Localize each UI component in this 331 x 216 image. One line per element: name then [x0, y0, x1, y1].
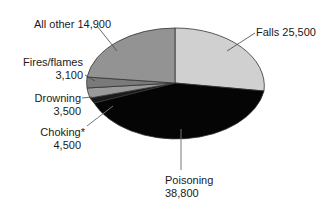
label-all-other: All other 14,900	[34, 18, 111, 31]
label-fires-name: Fires/flames	[22, 56, 83, 69]
label-choking-value: 4,500	[20, 139, 81, 152]
label-poisoning-name: Poisoning	[165, 174, 213, 187]
label-poisoning-value: 38,800	[165, 187, 199, 200]
slice-all-other	[87, 28, 175, 83]
label-drowning-value: 3,500	[20, 105, 81, 118]
label-falls: Falls 25,500	[256, 26, 316, 39]
label-drowning-name: Drowning	[20, 92, 81, 105]
label-fires-value: 3,100	[22, 69, 83, 82]
label-choking-name: Choking*	[20, 126, 85, 139]
slice-falls	[175, 28, 264, 91]
